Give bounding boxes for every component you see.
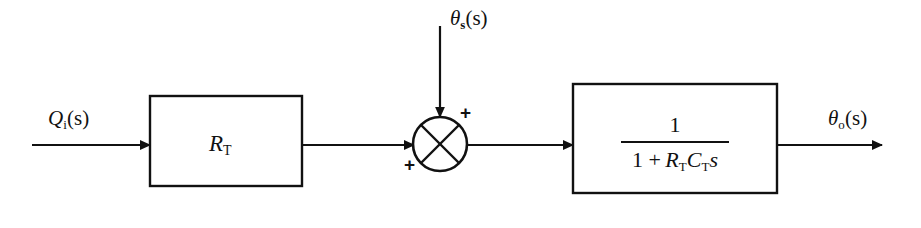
gain-block-base: R [209, 131, 223, 156]
output-signal-label: θo(s) [828, 108, 867, 131]
input-signal-base: Q [48, 106, 63, 130]
output-signal-base: θ [828, 106, 838, 130]
disturbance-signal-label: θs(s) [450, 8, 488, 31]
transfer-function-fraction-bar [621, 141, 729, 143]
input-signal-label: Qi(s) [48, 108, 89, 131]
transfer-function-denominator-r: R [665, 147, 678, 172]
input-signal-argument: (s) [67, 106, 89, 130]
block-diagram-canvas: Qi(s) RT θs(s) + + 1 1 + RTCTs θo(s) [0, 0, 921, 228]
disturbance-signal-argument: (s) [465, 6, 487, 30]
gain-block-subscript: T [223, 143, 232, 158]
transfer-function-denominator-s: s [709, 147, 718, 172]
transfer-function-denominator: 1 + RTCTs [621, 145, 729, 175]
summing-junction-sign-top: + [460, 103, 471, 122]
gain-block-label: RT [209, 132, 232, 158]
transfer-function-numerator: 1 [621, 112, 729, 140]
output-signal-argument: (s) [845, 106, 867, 130]
transfer-function-denominator-prefix: 1 + [632, 147, 665, 172]
summing-junction-sign-left: + [404, 155, 415, 174]
disturbance-signal-base: θ [450, 6, 460, 30]
transfer-function-expression: 1 1 + RTCTs [621, 112, 729, 175]
transfer-function-denominator-c: C [687, 147, 702, 172]
transfer-function-denominator-r-subscript: T [679, 159, 687, 174]
